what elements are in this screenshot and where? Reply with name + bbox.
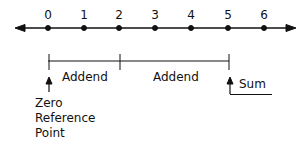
left-arrow-icon — [15, 25, 25, 32]
zero-reference-arrow — [46, 77, 52, 92]
tick-label-6: 6 — [260, 8, 268, 22]
number-line — [15, 25, 296, 32]
zero-reference-line-3: Point — [35, 126, 65, 140]
addend-1-label: Addend — [62, 70, 108, 84]
tick-label-2: 2 — [115, 8, 123, 22]
tick-label-1: 1 — [80, 8, 88, 22]
tick-label-5: 5 — [224, 8, 232, 22]
sum-label: Sum — [239, 77, 266, 91]
zero-reference-line-1: Zero — [35, 96, 63, 110]
tick-label-0: 0 — [44, 8, 52, 22]
zero-reference-line-2: Reference — [35, 111, 95, 125]
right-arrow-icon — [286, 25, 296, 32]
tick-label-3: 3 — [151, 8, 159, 22]
addend-brackets — [48, 54, 229, 70]
tick-label-4: 4 — [187, 8, 195, 22]
addend-2-label: Addend — [153, 70, 199, 84]
